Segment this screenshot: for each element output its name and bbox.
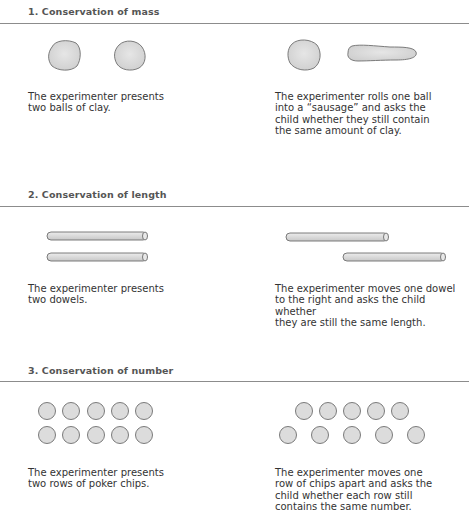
section-divider [0,206,469,207]
poker-chips-spread [280,403,425,444]
clay-ball-icon [115,41,146,70]
dowel-icon [286,233,389,241]
illustrations [0,0,469,512]
section-title-length: 2. Conservation of length [28,189,167,200]
section-title-number: 3. Conservation of number [28,365,173,376]
clay-sausage-icon [348,45,416,61]
caption-length-right: The experimenter moves one dowel to the … [275,283,469,329]
caption-length-left: The experimenter presents two dowels. [28,283,164,306]
caption-number-right: The experimenter moves one row of chips … [275,467,432,512]
dowel-icon [343,253,446,261]
clay-ball-icon [49,41,81,70]
dowel-icon [47,253,148,261]
caption-mass-right: The experimenter rolls one ball into a “… [275,91,431,137]
poker-chips-aligned [39,403,153,444]
dowel-icon [47,232,148,240]
caption-mass-left: The experimenter presents two balls of c… [28,91,164,114]
section-divider [0,381,469,382]
caption-number-left: The experimenter presents two rows of po… [28,467,164,490]
clay-ball-icon [288,40,320,70]
